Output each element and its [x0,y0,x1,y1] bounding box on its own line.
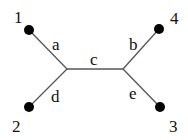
leaf-label-2: 2 [12,117,21,136]
leaf-label-4: 4 [170,9,179,28]
edge-label-b: b [129,35,138,54]
edge-label-a: a [52,35,60,54]
leaf-node-4 [154,24,164,34]
edge-label-c: c [90,50,98,69]
tree-diagram: 1 2 3 4 a c b d e [0,0,188,140]
leaf-node-1 [24,25,34,35]
leaf-node-2 [24,102,34,112]
leaf-label-3: 3 [169,117,178,136]
edge-label-e: e [129,84,137,103]
leaf-label-1: 1 [14,8,23,27]
edge-a [29,30,67,69]
edge-d [29,69,67,107]
leaf-node-3 [155,102,165,112]
edge-label-d: d [51,87,60,106]
